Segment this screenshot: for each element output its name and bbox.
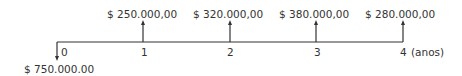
arrow-down-icon	[55, 56, 59, 61]
inflow-label-3: $ 380.000,00	[279, 9, 349, 20]
period-label-4: 4	[400, 47, 407, 58]
period-label-1: 1	[141, 47, 148, 58]
inflow-label-4: $ 280.000,00	[365, 9, 435, 20]
inflow-label-1: $ 250.000,00	[107, 9, 177, 20]
outflow-label: $ 750.000.00	[24, 64, 94, 75]
inflow-arrow-3	[314, 20, 318, 42]
unit-label: (anos)	[411, 47, 444, 58]
period-label-3: 3	[314, 47, 321, 58]
period-label-0: 0	[61, 47, 68, 58]
inflow-arrow-1	[141, 20, 145, 42]
inflow-label-2: $ 320.000,00	[193, 9, 263, 20]
inflow-arrow-4	[401, 20, 405, 42]
period-label-2: 2	[227, 47, 234, 58]
inflow-arrow-2	[228, 20, 232, 42]
